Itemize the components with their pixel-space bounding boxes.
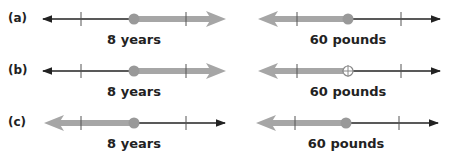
caption-a-right: 60 pounds <box>288 32 408 47</box>
caption-b-right: 60 pounds <box>288 84 408 99</box>
number-line-a-left <box>43 11 226 27</box>
number-line-b-left <box>43 63 226 79</box>
number-line-b-right <box>258 63 440 79</box>
caption-c-left: 8 years <box>74 136 194 151</box>
number-line-a-right <box>258 11 440 27</box>
number-line-c-left <box>44 115 225 131</box>
caption-a-left: 8 years <box>74 32 194 47</box>
caption-c-right: 60 pounds <box>286 136 406 151</box>
caption-b-left: 8 years <box>74 84 194 99</box>
number-line-c-right <box>256 115 438 131</box>
